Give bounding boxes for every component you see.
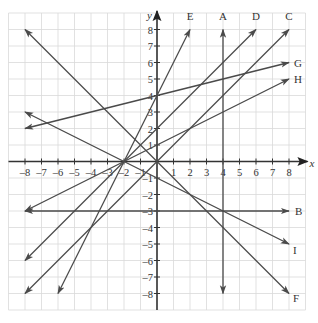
line-label-I: I bbox=[293, 244, 297, 256]
x-tick-label: 6 bbox=[253, 167, 258, 178]
x-tick-label: 7 bbox=[270, 167, 275, 178]
y-tick-label: –4 bbox=[142, 223, 154, 234]
line-labels: ABCDEFGHI bbox=[187, 10, 303, 304]
line-label-H: H bbox=[294, 73, 302, 85]
x-tick-label: 5 bbox=[237, 167, 242, 178]
line-label-B: B bbox=[295, 205, 302, 217]
y-tick-label: 7 bbox=[148, 41, 153, 52]
y-tick-label: 6 bbox=[148, 58, 153, 69]
y-tick-label: 8 bbox=[148, 25, 153, 36]
x-tick-label: –6 bbox=[52, 167, 64, 178]
x-axis-label: x bbox=[309, 157, 315, 169]
x-tick-label: –8 bbox=[19, 167, 31, 178]
line-label-A: A bbox=[219, 10, 227, 22]
line-label-G: G bbox=[294, 57, 302, 69]
line-label-D: D bbox=[252, 10, 260, 22]
y-tick-label: –5 bbox=[142, 239, 154, 250]
x-tick-label: –5 bbox=[68, 167, 80, 178]
y-tick-label: 5 bbox=[148, 74, 153, 85]
line-label-E: E bbox=[187, 10, 194, 22]
x-tick-label: –7 bbox=[35, 167, 47, 178]
y-tick-label: –2 bbox=[142, 190, 154, 201]
x-tick-label: 3 bbox=[204, 167, 209, 178]
y-axis-label: y bbox=[146, 9, 152, 21]
x-tick-label: 2 bbox=[187, 167, 192, 178]
x-tick-label: 8 bbox=[286, 167, 291, 178]
line-label-C: C bbox=[285, 10, 292, 22]
line-label-F: F bbox=[293, 292, 299, 304]
y-tick-label: –8 bbox=[142, 289, 154, 300]
y-tick-label: –7 bbox=[142, 272, 154, 283]
y-tick-label: –6 bbox=[142, 256, 154, 267]
coordinate-graph: xy –8–7–6–5–4–3–2–11234567887654321–1–2–… bbox=[0, 0, 318, 323]
